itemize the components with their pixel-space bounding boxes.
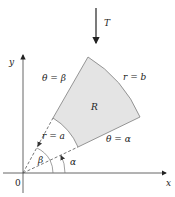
transform-label: T xyxy=(104,18,111,28)
y-axis-label: y xyxy=(8,57,15,67)
outer-arc-label: r = b xyxy=(123,72,147,82)
x-axis-label: x xyxy=(166,178,171,188)
ray-beta-label: θ = β xyxy=(42,73,66,83)
tick-beta xyxy=(38,142,40,146)
origin-label: 0 xyxy=(15,178,21,188)
region-label: R xyxy=(90,102,98,112)
angle-alpha-label: α xyxy=(70,157,76,167)
angle-beta-label: β xyxy=(37,155,43,165)
ray-alpha-label: θ = α xyxy=(106,134,131,144)
polar-rectangle-diagram: T y x 0 R r = b r = a θ = β θ = α β α xyxy=(0,0,175,197)
angle-beta-arc-ext xyxy=(50,160,53,173)
inner-arc-label: r = a xyxy=(42,131,65,141)
